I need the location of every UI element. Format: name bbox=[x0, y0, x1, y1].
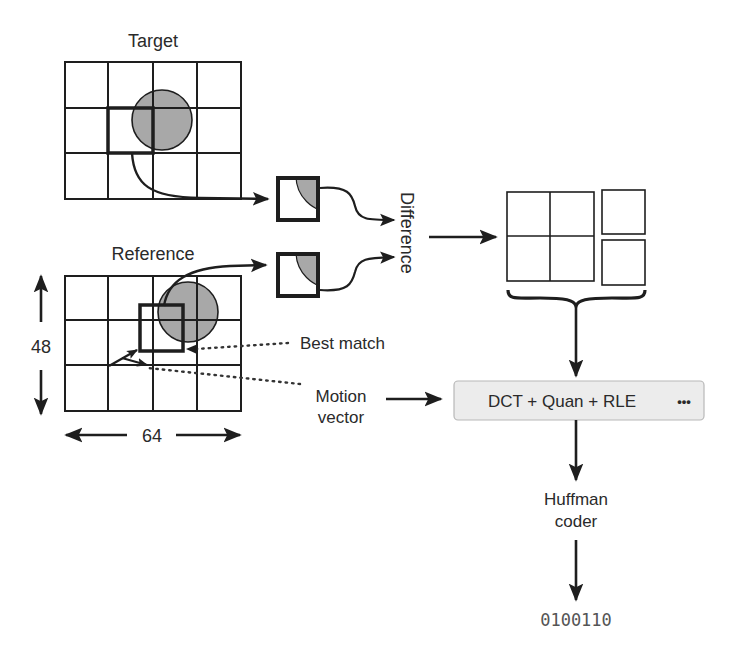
height-dimension: 48 bbox=[31, 276, 51, 414]
motion-vector-label-line1: Motion bbox=[315, 387, 366, 406]
huffman-label-line2: coder bbox=[555, 512, 598, 531]
reference-label: Reference bbox=[111, 244, 194, 264]
best-match-label: Best match bbox=[300, 334, 385, 353]
chroma-block-cr bbox=[602, 240, 645, 285]
target-label: Target bbox=[128, 31, 178, 51]
reference-frame: Reference bbox=[65, 244, 241, 411]
encoder-stage: DCT + Quan + RLE ••• bbox=[454, 381, 704, 420]
huffman-label-line1: Huffman bbox=[544, 490, 608, 509]
motion-vector-leader bbox=[148, 368, 300, 384]
width-label: 64 bbox=[142, 426, 162, 446]
reference-grid bbox=[65, 276, 241, 411]
output-bitstream: 0100110 bbox=[540, 610, 612, 630]
encoder-stage-label: DCT + Quan + RLE bbox=[488, 392, 636, 411]
height-label: 48 bbox=[31, 337, 51, 357]
difference-label: Difference bbox=[397, 192, 417, 274]
width-dimension: 64 bbox=[66, 426, 240, 446]
residual-blocks bbox=[507, 190, 645, 285]
target-frame: Target bbox=[65, 31, 241, 199]
reference-block bbox=[278, 216, 368, 296]
block-a-to-difference-arrow bbox=[320, 188, 394, 220]
encoder-more-icon: ••• bbox=[677, 394, 691, 409]
grouping-brace bbox=[508, 290, 645, 306]
motion-compensation-diagram: Target Reference bbox=[0, 0, 730, 655]
chroma-block-cb bbox=[602, 190, 645, 234]
block-b-to-difference-arrow bbox=[320, 257, 394, 290]
target-object-circle bbox=[132, 90, 192, 150]
motion-vector-arrow-back bbox=[122, 358, 147, 365]
motion-vector-label-line2: vector bbox=[318, 408, 365, 427]
reference-object-circle bbox=[158, 282, 218, 342]
best-match-leader-head bbox=[186, 344, 198, 354]
